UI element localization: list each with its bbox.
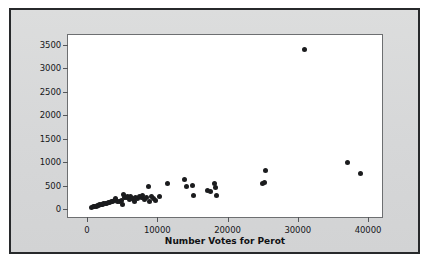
y-axis-tick-label: 2500 [40, 87, 61, 97]
scatter-point [182, 177, 187, 182]
x-axis-tick-label: 30000 [284, 225, 311, 235]
x-axis-tick-label: 20000 [214, 225, 241, 235]
scatter-point [157, 194, 162, 199]
y-axis-tick-label: 1500 [40, 134, 61, 144]
x-axis-tick-label: 0 [84, 225, 89, 235]
x-axis-tick-label: 40000 [355, 225, 382, 235]
scatter-point [302, 47, 307, 52]
y-axis-tick [63, 162, 68, 163]
y-axis-tick-label: 1000 [40, 157, 61, 167]
y-axis-tick [63, 68, 68, 69]
y-axis-tick-label: 500 [45, 181, 61, 191]
y-axis-tick [63, 186, 68, 187]
x-axis-tick [87, 217, 88, 222]
scatter-point [345, 160, 350, 165]
scatter-point [214, 193, 219, 198]
scatter-plot-panel: Number Votes for Perot 05001000150020002… [67, 34, 383, 218]
scatter-point [208, 189, 213, 194]
scatter-point [191, 193, 196, 198]
y-axis-tick [63, 45, 68, 46]
y-axis-tick [63, 115, 68, 116]
scatter-point [213, 185, 218, 190]
scatter-point [263, 168, 268, 173]
scatter-point [146, 184, 151, 189]
y-axis-tick [63, 209, 68, 210]
y-axis-tick-label: 0 [56, 204, 61, 214]
y-axis-tick-label: 2000 [40, 110, 61, 120]
y-axis-tick-label: 3000 [40, 63, 61, 73]
scatter-point [262, 180, 267, 185]
x-axis-tick [228, 217, 229, 222]
x-axis-tick [298, 217, 299, 222]
figure-background: Number Votes for Perot 05001000150020002… [11, 10, 418, 252]
scatter-point [165, 181, 170, 186]
scatter-point [120, 202, 125, 207]
y-axis-tick [63, 139, 68, 140]
x-axis-tick [368, 217, 369, 222]
scatter-point [190, 183, 195, 188]
scatter-point [184, 184, 189, 189]
y-axis-tick [63, 92, 68, 93]
plot-data-area [68, 35, 382, 217]
x-axis-title: Number Votes for Perot [68, 236, 382, 246]
x-axis-tick-label: 10000 [144, 225, 171, 235]
x-axis-tick [157, 217, 158, 222]
y-axis-tick-label: 3500 [40, 40, 61, 50]
scatter-point [358, 171, 363, 176]
figure-frame: Number Votes for Perot 05001000150020002… [9, 8, 420, 254]
